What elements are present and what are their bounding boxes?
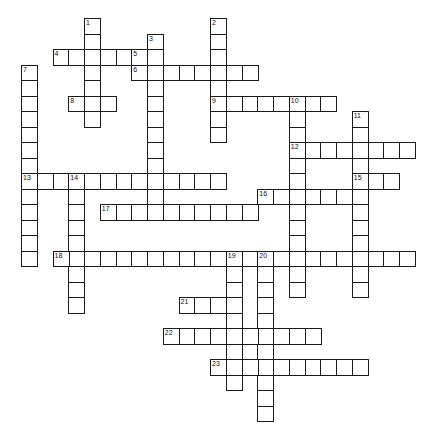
- crossword-cell[interactable]: [147, 96, 164, 113]
- crossword-cell[interactable]: [100, 251, 117, 268]
- crossword-cell[interactable]: [53, 173, 70, 190]
- crossword-cell[interactable]: [68, 49, 85, 66]
- crossword-cell[interactable]: [194, 204, 211, 221]
- crossword-cell[interactable]: [399, 142, 416, 159]
- crossword-cell[interactable]: [257, 406, 274, 423]
- crossword-cell[interactable]: [21, 127, 38, 144]
- crossword-cell[interactable]: [242, 251, 259, 268]
- crossword-cell[interactable]: 6: [131, 65, 148, 82]
- crossword-cell[interactable]: [352, 220, 369, 237]
- crossword-cell[interactable]: [242, 65, 259, 82]
- crossword-cell[interactable]: [305, 189, 322, 206]
- crossword-cell[interactable]: [289, 282, 306, 299]
- crossword-cell[interactable]: [257, 96, 274, 113]
- crossword-cell[interactable]: [257, 266, 274, 283]
- crossword-cell[interactable]: 7: [21, 65, 38, 82]
- crossword-cell[interactable]: [368, 142, 385, 159]
- crossword-cell[interactable]: [194, 297, 211, 314]
- crossword-cell[interactable]: [226, 65, 243, 82]
- crossword-cell[interactable]: 5: [131, 49, 148, 66]
- crossword-cell[interactable]: [383, 173, 400, 190]
- crossword-cell[interactable]: [305, 359, 322, 376]
- crossword-cell[interactable]: [147, 158, 164, 175]
- crossword-cell[interactable]: [320, 142, 337, 159]
- crossword-cell[interactable]: [210, 34, 227, 51]
- crossword-cell[interactable]: [147, 127, 164, 144]
- crossword-cell[interactable]: [147, 173, 164, 190]
- crossword-cell[interactable]: 11: [352, 111, 369, 128]
- crossword-cell[interactable]: [210, 204, 227, 221]
- crossword-cell[interactable]: [179, 204, 196, 221]
- crossword-cell[interactable]: [289, 359, 306, 376]
- crossword-cell[interactable]: [305, 251, 322, 268]
- crossword-cell[interactable]: [242, 96, 259, 113]
- crossword-cell[interactable]: [305, 142, 322, 159]
- crossword-cell[interactable]: [352, 142, 369, 159]
- crossword-cell[interactable]: 12: [289, 142, 306, 159]
- crossword-cell[interactable]: [68, 220, 85, 237]
- crossword-cell[interactable]: [368, 251, 385, 268]
- crossword-cell[interactable]: [116, 173, 133, 190]
- crossword-cell[interactable]: [179, 328, 196, 345]
- crossword-cell[interactable]: [257, 313, 274, 330]
- crossword-cell[interactable]: [257, 328, 274, 345]
- crossword-cell[interactable]: [68, 189, 85, 206]
- crossword-cell[interactable]: [226, 297, 243, 314]
- crossword-cell[interactable]: [242, 328, 259, 345]
- crossword-cell[interactable]: [179, 251, 196, 268]
- crossword-cell[interactable]: [352, 266, 369, 283]
- crossword-cell[interactable]: 19: [226, 251, 243, 268]
- crossword-cell[interactable]: [336, 142, 353, 159]
- crossword-cell[interactable]: 18: [53, 251, 70, 268]
- crossword-cell[interactable]: [84, 65, 101, 82]
- crossword-cell[interactable]: 16: [257, 189, 274, 206]
- crossword-cell[interactable]: [21, 204, 38, 221]
- crossword-cell[interactable]: [289, 158, 306, 175]
- crossword-cell[interactable]: [336, 359, 353, 376]
- crossword-cell[interactable]: [179, 65, 196, 82]
- crossword-cell[interactable]: [163, 173, 180, 190]
- crossword-cell[interactable]: [257, 359, 274, 376]
- crossword-cell[interactable]: [210, 80, 227, 97]
- crossword-cell[interactable]: 3: [147, 34, 164, 51]
- crossword-cell[interactable]: [242, 204, 259, 221]
- crossword-cell[interactable]: [226, 344, 243, 361]
- crossword-cell[interactable]: [131, 251, 148, 268]
- crossword-cell[interactable]: [210, 111, 227, 128]
- crossword-cell[interactable]: 21: [179, 297, 196, 314]
- crossword-cell[interactable]: [21, 142, 38, 159]
- crossword-cell[interactable]: [368, 173, 385, 190]
- crossword-cell[interactable]: [116, 49, 133, 66]
- crossword-cell[interactable]: [257, 390, 274, 407]
- crossword-cell[interactable]: 8: [68, 96, 85, 113]
- crossword-cell[interactable]: [210, 328, 227, 345]
- crossword-cell[interactable]: [84, 80, 101, 97]
- crossword-cell[interactable]: [257, 344, 274, 361]
- crossword-cell[interactable]: [210, 297, 227, 314]
- crossword-cell[interactable]: [68, 235, 85, 252]
- crossword-cell[interactable]: 10: [289, 96, 306, 113]
- crossword-cell[interactable]: [352, 204, 369, 221]
- crossword-cell[interactable]: 2: [210, 18, 227, 35]
- crossword-cell[interactable]: [383, 251, 400, 268]
- crossword-cell[interactable]: [257, 297, 274, 314]
- crossword-cell[interactable]: [226, 328, 243, 345]
- crossword-cell[interactable]: [179, 173, 196, 190]
- crossword-cell[interactable]: [289, 111, 306, 128]
- crossword-cell[interactable]: [320, 251, 337, 268]
- crossword-cell[interactable]: [320, 189, 337, 206]
- crossword-cell[interactable]: 13: [21, 173, 38, 190]
- crossword-cell[interactable]: [273, 189, 290, 206]
- crossword-cell[interactable]: [352, 158, 369, 175]
- crossword-cell[interactable]: [21, 220, 38, 237]
- crossword-cell[interactable]: [289, 328, 306, 345]
- crossword-cell[interactable]: [116, 251, 133, 268]
- crossword-cell[interactable]: [226, 375, 243, 392]
- crossword-cell[interactable]: [289, 204, 306, 221]
- crossword-cell[interactable]: [147, 111, 164, 128]
- crossword-cell[interactable]: 23: [210, 359, 227, 376]
- crossword-cell[interactable]: [320, 96, 337, 113]
- crossword-cell[interactable]: [116, 204, 133, 221]
- crossword-cell[interactable]: [163, 204, 180, 221]
- crossword-cell[interactable]: [226, 282, 243, 299]
